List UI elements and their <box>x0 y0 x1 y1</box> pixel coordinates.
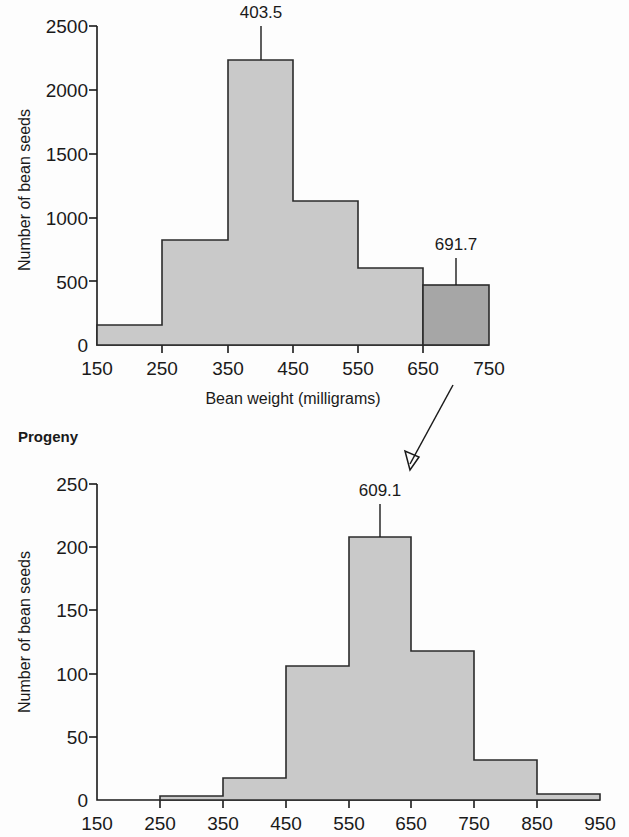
parental-selected-label: 691.7 <box>435 235 478 254</box>
parental-ytick-1000: 1000 <box>46 208 88 229</box>
parental-ytick-0: 0 <box>77 335 88 356</box>
parental-mean-label: 403.5 <box>240 3 283 22</box>
parental-ytick-1500: 1500 <box>46 144 88 165</box>
progeny-ytick-150: 150 <box>56 600 88 621</box>
parental-histogram-panel: Number of bean seeds 2500 2000 1500 1000… <box>0 0 629 420</box>
parental-xtick-750: 750 <box>473 358 505 379</box>
progeny-y-axis-title: Number of bean seeds <box>16 551 33 713</box>
progeny-xtick-550: 550 <box>333 813 365 834</box>
parental-xtick-250: 250 <box>146 358 178 379</box>
parental-xtick-450: 450 <box>277 358 309 379</box>
progeny-histogram-panel: Progeny Number of bean seeds 250 200 150… <box>0 417 629 837</box>
parental-ytick-500: 500 <box>56 272 88 293</box>
progeny-ytick-100: 100 <box>56 664 88 685</box>
parental-xtick-650: 650 <box>407 358 439 379</box>
progeny-xtick-950: 950 <box>584 813 616 834</box>
parental-xtick-550: 550 <box>342 358 374 379</box>
progeny-xtick-250: 250 <box>144 813 176 834</box>
parental-ytick-2500: 2500 <box>46 16 88 37</box>
progeny-xtick-150: 150 <box>81 813 113 834</box>
progeny-ytick-0: 0 <box>77 790 88 811</box>
parental-xtick-150: 150 <box>81 358 113 379</box>
progeny-ytick-200: 200 <box>56 537 88 558</box>
progeny-ytick-50: 50 <box>67 727 88 748</box>
progeny-mean-label: 609.1 <box>359 481 402 500</box>
bean-seed-selection-figure: Number of bean seeds 2500 2000 1500 1000… <box>0 0 629 837</box>
parental-x-ticks <box>162 345 423 353</box>
parental-y-axis-title: Number of bean seeds <box>16 109 33 271</box>
progeny-ytick-250: 250 <box>56 474 88 495</box>
parental-ytick-2000: 2000 <box>46 80 88 101</box>
progeny-xtick-450: 450 <box>270 813 302 834</box>
progeny-xtick-850: 850 <box>521 813 553 834</box>
parental-y-ticks <box>89 26 97 281</box>
progeny-bars <box>160 537 600 800</box>
progeny-panel-title: Progeny <box>18 428 79 445</box>
parental-bar-selected-650-750 <box>423 285 489 345</box>
progeny-xtick-750: 750 <box>458 813 490 834</box>
parental-xtick-350: 350 <box>212 358 244 379</box>
progeny-y-ticks <box>89 484 97 737</box>
progeny-xtick-350: 350 <box>207 813 239 834</box>
parental-bars-light <box>97 60 423 345</box>
progeny-xtick-650: 650 <box>395 813 427 834</box>
progeny-x-ticks <box>160 800 537 808</box>
